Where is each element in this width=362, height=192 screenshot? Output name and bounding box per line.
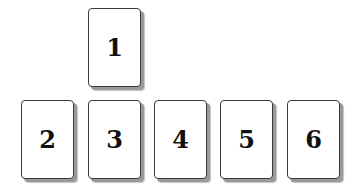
card-label: 3 — [106, 128, 123, 152]
card-3: 3 — [88, 100, 141, 179]
card-6: 6 — [287, 100, 340, 179]
card-label: 5 — [238, 128, 255, 152]
card-label: 2 — [39, 128, 56, 152]
card-5: 5 — [220, 100, 273, 179]
card-2: 2 — [21, 100, 74, 179]
card-4: 4 — [154, 100, 207, 179]
card-label: 4 — [172, 128, 189, 152]
card-1: 1 — [88, 8, 141, 87]
card-label: 1 — [106, 36, 123, 60]
card-label: 6 — [305, 128, 322, 152]
